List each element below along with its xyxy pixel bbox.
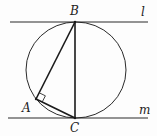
label-m: m: [139, 103, 150, 117]
segment-ab: [36, 22, 75, 99]
label-a: A: [21, 101, 31, 115]
segment-ac: [36, 99, 75, 118]
label-b: B: [69, 4, 79, 18]
geometry-diagram: B l A C m: [0, 0, 157, 136]
label-c: C: [70, 121, 79, 135]
diagram-canvas: B l A C m: [0, 0, 157, 136]
label-l: l: [141, 5, 145, 19]
point-c: [74, 117, 76, 119]
circle: [26, 22, 126, 118]
point-b: [74, 21, 76, 23]
point-a: [35, 98, 37, 100]
